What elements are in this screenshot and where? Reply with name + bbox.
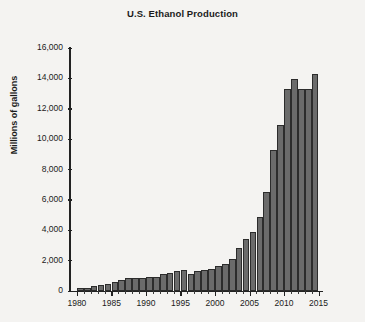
x-tick-label: 2015: [299, 298, 339, 308]
x-tick-mark-minor: [84, 291, 85, 294]
bar: [125, 278, 132, 291]
x-tick-mark-minor: [298, 291, 299, 294]
y-tick-label: 8,000: [42, 164, 63, 174]
y-axis-label: Millions of gallons: [9, 55, 19, 175]
bar: [270, 150, 277, 291]
bar: [298, 89, 305, 291]
bar: [160, 274, 167, 291]
bar: [174, 271, 181, 292]
x-tick-mark-major: [250, 291, 251, 296]
bar: [139, 278, 146, 291]
x-tick-mark-major: [146, 291, 147, 296]
x-tick-mark-minor: [312, 291, 313, 294]
bar: [132, 278, 139, 291]
bar: [153, 277, 160, 291]
x-tick-mark-minor: [270, 291, 271, 294]
x-tick-mark-minor: [167, 291, 168, 294]
x-tick-mark-minor: [139, 291, 140, 294]
x-tick-mark-minor: [153, 291, 154, 294]
bar: [188, 274, 195, 291]
bar: [146, 277, 153, 291]
bar: [250, 232, 257, 291]
x-tick-mark-minor: [305, 291, 306, 294]
bar: [112, 282, 119, 291]
bar: [215, 266, 222, 291]
x-tick-mark-minor: [243, 291, 244, 294]
x-tick-mark-major: [215, 291, 216, 296]
bar: [201, 270, 208, 291]
bar: [98, 285, 105, 291]
bar: [222, 264, 229, 291]
y-tick-label: 6,000: [42, 194, 63, 204]
x-tick-mark-minor: [236, 291, 237, 294]
bar: [236, 248, 243, 291]
bar: [243, 239, 250, 291]
plot-area: [70, 48, 322, 291]
bar: [194, 271, 201, 291]
x-tick-mark-minor: [125, 291, 126, 294]
bar: [312, 74, 319, 291]
x-tick-mark-minor: [291, 291, 292, 294]
x-tick-mark-major: [284, 291, 285, 296]
bar: [118, 280, 125, 291]
y-tick-label: 16,000: [37, 42, 63, 52]
x-tick-mark-minor: [132, 291, 133, 294]
chart-title: U.S. Ethanol Production: [0, 8, 365, 19]
bar: [181, 270, 188, 291]
y-tick-label: 4,000: [42, 224, 63, 234]
bar: [257, 217, 264, 291]
x-tick-mark-major: [180, 291, 181, 296]
x-tick-mark-minor: [91, 291, 92, 294]
x-tick-mark-minor: [98, 291, 99, 294]
bar: [291, 79, 298, 291]
x-tick-mark-minor: [277, 291, 278, 294]
x-tick-mark-major: [111, 291, 112, 296]
y-tick-label: 0: [58, 285, 63, 295]
y-tick-label: 12,000: [37, 103, 63, 113]
x-tick-mark-minor: [201, 291, 202, 294]
bar: [105, 284, 112, 291]
x-tick-mark-minor: [174, 291, 175, 294]
x-tick-mark-minor: [256, 291, 257, 294]
x-tick-mark-minor: [208, 291, 209, 294]
x-tick-mark-major: [77, 291, 78, 296]
x-tick-mark-minor: [263, 291, 264, 294]
x-tick-mark-minor: [118, 291, 119, 294]
x-tick-mark-minor: [105, 291, 106, 294]
y-tick-label: 14,000: [37, 72, 63, 82]
bar: [277, 125, 284, 291]
bar: [284, 89, 291, 291]
x-tick-mark-minor: [222, 291, 223, 294]
x-tick-mark-major: [319, 291, 320, 296]
x-tick-mark-minor: [160, 291, 161, 294]
bar: [167, 273, 174, 291]
bar: [208, 269, 215, 291]
bar: [77, 288, 84, 291]
x-tick-mark-minor: [229, 291, 230, 294]
y-tick-label: 2,000: [42, 255, 63, 265]
x-tick-mark-minor: [187, 291, 188, 294]
bar: [91, 286, 98, 291]
bar: [263, 192, 270, 291]
ethanol-production-bar-chart: U.S. Ethanol Production Millions of gall…: [0, 0, 365, 322]
bar: [229, 259, 236, 291]
bar: [84, 288, 91, 291]
y-tick-label: 10,000: [37, 133, 63, 143]
bar: [305, 89, 312, 291]
x-tick-mark-minor: [194, 291, 195, 294]
